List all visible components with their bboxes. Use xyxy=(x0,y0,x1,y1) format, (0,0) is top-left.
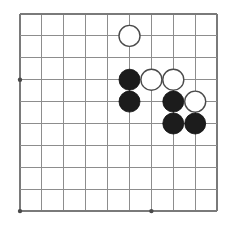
stone-black-b3[interactable] xyxy=(163,91,184,112)
stone-white-w1[interactable] xyxy=(119,25,140,46)
grid-horizontal-lines xyxy=(20,14,217,211)
star-point-3 xyxy=(149,209,153,213)
stone-white-w2[interactable] xyxy=(141,69,162,90)
star-point-1 xyxy=(18,78,22,82)
stone-white-w3[interactable] xyxy=(163,69,184,90)
stone-white-w4[interactable] xyxy=(185,91,206,112)
grid-vertical-lines xyxy=(20,14,217,211)
go-board-figure xyxy=(0,0,226,235)
stone-black-b4[interactable] xyxy=(163,113,184,134)
go-board[interactable] xyxy=(0,0,226,235)
stone-black-b1[interactable] xyxy=(119,69,140,90)
stone-black-b5[interactable] xyxy=(185,113,206,134)
stone-black-b2[interactable] xyxy=(119,91,140,112)
star-point-2 xyxy=(18,209,22,213)
